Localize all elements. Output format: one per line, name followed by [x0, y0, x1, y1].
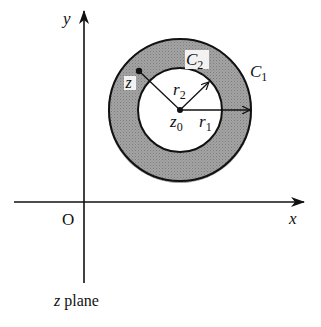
origin-label: O	[62, 210, 74, 229]
r2-label: r2	[173, 80, 186, 102]
r1-label: r1	[199, 112, 212, 134]
plane-word: plane	[64, 292, 99, 310]
c1-label: C1	[250, 62, 267, 84]
point-z-label: z	[125, 74, 133, 91]
y-axis-label: y	[61, 9, 71, 28]
x-axis-label: x	[288, 209, 297, 228]
z0-label: z0	[169, 112, 183, 134]
center-point-z0	[177, 107, 183, 113]
annulus-diagram: y x O z C2 C1 r2 z0 r1 z plane	[0, 0, 321, 327]
point-z	[136, 68, 142, 74]
plane-caption: z plane	[53, 292, 99, 310]
